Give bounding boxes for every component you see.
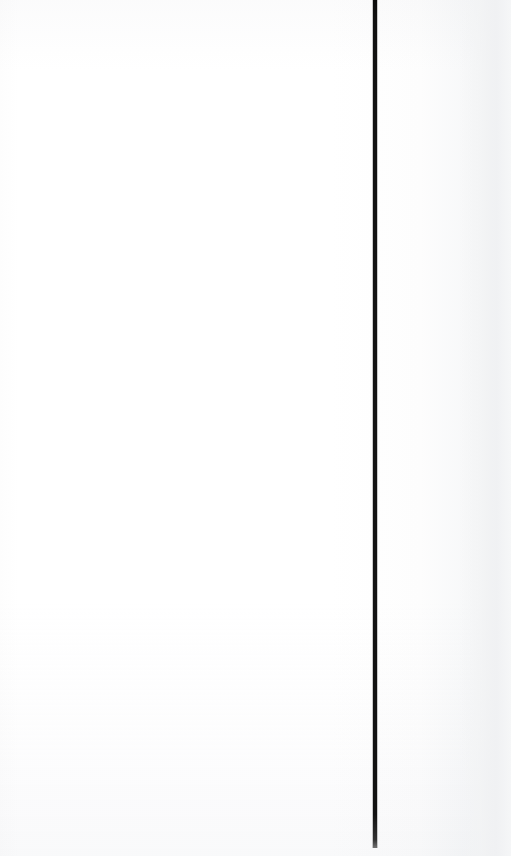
blank-content-area bbox=[0, 0, 373, 856]
scanned-page: Meat bbox=[0, 0, 511, 856]
section-tab-margin: Meat bbox=[377, 0, 511, 856]
